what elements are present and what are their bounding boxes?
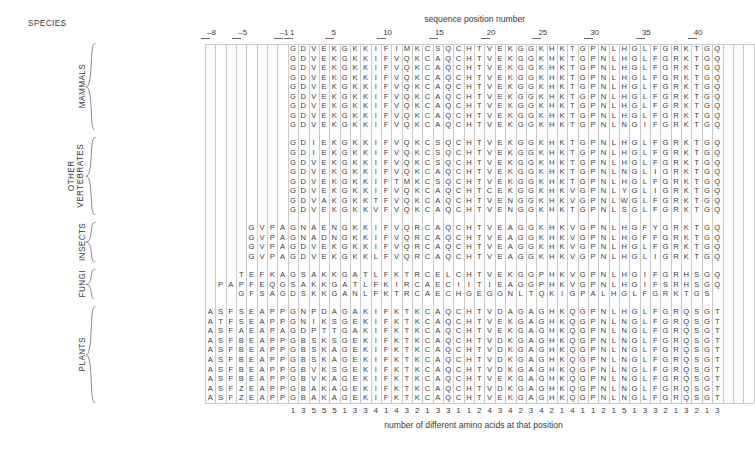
- residue-cell: K: [319, 384, 329, 394]
- residue-cell: K: [360, 223, 370, 233]
- residue-cell: A: [257, 393, 267, 403]
- residue-cell: Q: [712, 242, 722, 252]
- residue-cell: V: [391, 92, 401, 102]
- residue-cell: G: [702, 158, 712, 168]
- residue-cell: V: [484, 63, 494, 73]
- residue-cell: N: [619, 374, 629, 384]
- residue-cell: Q: [567, 355, 577, 365]
- variability-count: 2: [412, 406, 422, 415]
- residue-cell: P: [236, 280, 246, 290]
- residue-cell: G: [288, 63, 298, 73]
- residue-cell: K: [391, 317, 401, 327]
- residue-cell: I: [371, 111, 381, 121]
- residue-cell: I: [640, 270, 650, 280]
- residue-cell: G: [288, 345, 298, 355]
- residue-cell: A: [205, 384, 215, 394]
- residue-cell: H: [547, 336, 557, 346]
- residue-cell: L: [609, 63, 619, 73]
- residue-cell: F: [650, 242, 660, 252]
- residue-cell: G: [660, 252, 670, 262]
- variability-count: 1: [629, 406, 639, 415]
- residue-cell: K: [557, 345, 567, 355]
- residue-cell: L: [609, 196, 619, 206]
- residue-cell: C: [422, 177, 432, 187]
- residue-cell: T: [567, 167, 577, 177]
- residue-cell: C: [422, 252, 432, 262]
- residue-cell: G: [288, 223, 298, 233]
- residue-cell: R: [412, 242, 422, 252]
- residue-cell: G: [629, 73, 639, 83]
- residue-cell: P: [267, 307, 277, 317]
- variability-count: 4: [371, 406, 381, 415]
- residue-cell: C: [422, 365, 432, 375]
- residue-cell: A: [267, 289, 277, 299]
- residue-cell: G: [629, 167, 639, 177]
- residue-cell: Q: [443, 82, 453, 92]
- residue-cell: F: [371, 280, 381, 290]
- residue-cell: P: [588, 270, 598, 280]
- residue-cell: K: [505, 393, 515, 403]
- residue-cell: A: [433, 63, 443, 73]
- residue-cell: G: [702, 345, 712, 355]
- residue-cell: G: [578, 101, 588, 111]
- residue-cell: K: [360, 186, 370, 196]
- residue-cell: A: [257, 317, 267, 327]
- residue-cell: G: [526, 54, 536, 64]
- residue-cell: F: [650, 336, 660, 346]
- residue-cell: I: [371, 355, 381, 365]
- residue-cell: Q: [443, 158, 453, 168]
- residue-cell: K: [350, 63, 360, 73]
- residue-cell: K: [391, 355, 401, 365]
- residue-cell: T: [474, 365, 484, 375]
- residue-cell: N: [619, 345, 629, 355]
- residue-cell: K: [536, 63, 546, 73]
- residue-cell: F: [381, 233, 391, 243]
- residue-cell: T: [474, 326, 484, 336]
- residue-cell: F: [381, 196, 391, 206]
- residue-cell: R: [671, 120, 681, 130]
- residue-cell: G: [516, 355, 526, 365]
- residue-cell: A: [309, 233, 319, 243]
- residue-cell: A: [433, 355, 443, 365]
- residue-cell: N: [298, 317, 308, 327]
- residue-cell: K: [329, 63, 339, 73]
- residue-cell: G: [702, 120, 712, 130]
- residue-cell: G: [702, 374, 712, 384]
- residue-cell: V: [484, 73, 494, 83]
- residue-cell: K: [681, 177, 691, 187]
- residue-cell: A: [329, 307, 339, 317]
- residue-cell: F: [650, 73, 660, 83]
- residue-cell: G: [526, 196, 536, 206]
- residue-cell: R: [671, 336, 681, 346]
- residue-cell: V: [484, 317, 494, 327]
- residue-cell: K: [350, 252, 360, 262]
- residue-cell: H: [547, 345, 557, 355]
- residue-cell: A: [350, 270, 360, 280]
- residue-cell: A: [277, 223, 287, 233]
- residue-cell: K: [505, 82, 515, 92]
- residue-cell: G: [526, 223, 536, 233]
- residue-cell: G: [246, 242, 256, 252]
- residue-cell: H: [464, 44, 474, 54]
- residue-cell: E: [319, 63, 329, 73]
- residue-cell: T: [691, 167, 701, 177]
- residue-cell: G: [702, 73, 712, 83]
- residue-cell: G: [702, 205, 712, 215]
- residue-cell: T: [474, 355, 484, 365]
- residue-cell: A: [433, 345, 443, 355]
- residue-cell: K: [309, 280, 319, 290]
- residue-cell: N: [598, 54, 608, 64]
- residue-cell: K: [412, 196, 422, 206]
- residue-cell: S: [691, 345, 701, 355]
- residue-cell: G: [277, 280, 287, 290]
- axis-tick-label: 40: [694, 28, 703, 37]
- axis-tick-label: 5: [331, 28, 335, 37]
- residue-cell: G: [526, 186, 536, 196]
- residue-cell: K: [681, 92, 691, 102]
- residue-cell: H: [464, 242, 474, 252]
- residue-cell: G: [340, 242, 350, 252]
- residue-cell: R: [671, 223, 681, 233]
- residue-cell: D: [298, 196, 308, 206]
- residue-cell: V: [567, 242, 577, 252]
- residue-cell: S: [215, 355, 225, 365]
